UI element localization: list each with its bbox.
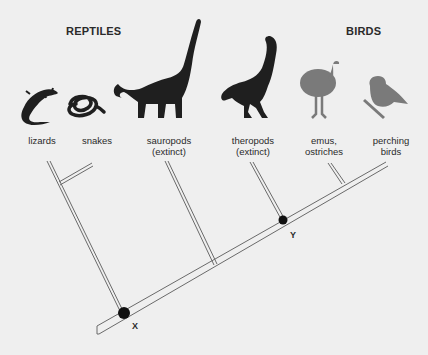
taxon-note: (extinct) xyxy=(236,146,270,157)
taxon-label-lizards: lizards xyxy=(28,135,55,146)
taxon-label-theropods: theropods(extinct) xyxy=(232,135,274,157)
taxon-name: emus, xyxy=(311,135,337,146)
taxon-name: lizards xyxy=(28,135,55,146)
taxon-name: sauropods xyxy=(147,135,191,146)
sauropod-icon xyxy=(114,19,201,118)
taxon-note: ostriches xyxy=(305,146,343,157)
taxon-label-snakes: snakes xyxy=(82,135,112,146)
theropod-icon xyxy=(221,36,277,118)
taxon-name: snakes xyxy=(82,135,112,146)
perching-bird-icon xyxy=(364,76,408,118)
node-label-x: X xyxy=(132,321,138,331)
taxon-note: birds xyxy=(381,146,402,157)
cladogram xyxy=(0,0,428,355)
taxon-label-emus: emus,ostriches xyxy=(305,135,343,157)
node-y xyxy=(279,216,288,225)
taxon-name: perching xyxy=(373,135,409,146)
branches xyxy=(47,161,388,334)
taxon-name: theropods xyxy=(232,135,274,146)
node-x xyxy=(118,307,130,319)
taxon-note: (extinct) xyxy=(152,146,186,157)
taxon-label-perching: perchingbirds xyxy=(373,135,409,157)
node-label-y: Y xyxy=(290,230,296,240)
ostrich-icon xyxy=(300,61,339,118)
lizard-icon xyxy=(21,88,58,125)
snake-icon xyxy=(69,97,104,116)
taxon-label-sauropods: sauropods(extinct) xyxy=(147,135,191,157)
